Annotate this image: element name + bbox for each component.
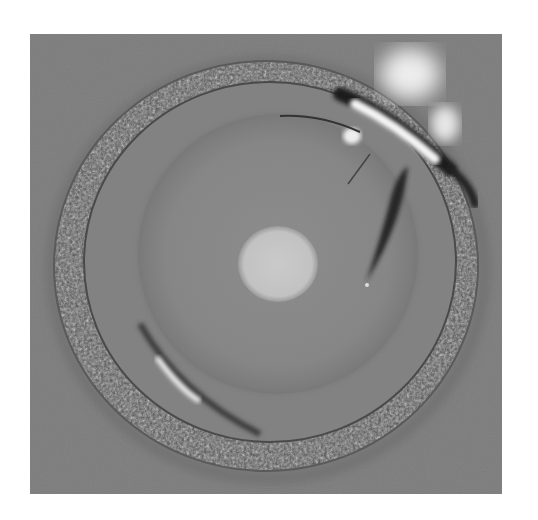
specimen-photo bbox=[30, 34, 502, 494]
specimen-illustration bbox=[30, 34, 502, 494]
central-bright-spot bbox=[238, 226, 318, 302]
